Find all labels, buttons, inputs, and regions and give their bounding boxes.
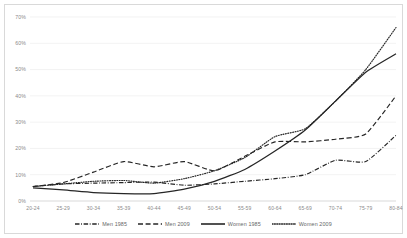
x-axis-tick-label: 40-44 [141, 205, 167, 211]
legend-item-women-1985[interactable]: Women 1985 [201, 221, 261, 227]
series-line-women-2009 [33, 28, 396, 187]
x-axis-tick-label: 30-34 [81, 205, 107, 211]
y-axis-tick-label: 30% [6, 119, 26, 125]
x-axis-tick-label: 60-64 [262, 205, 288, 211]
plot-area [0, 0, 407, 238]
y-axis-tick-label: 0% [6, 198, 26, 204]
y-axis-tick-label: 60% [6, 40, 26, 46]
series-line-men-1985 [33, 135, 396, 186]
legend-label: Men 2009 [165, 221, 190, 227]
x-axis-tick-label: 25-29 [50, 205, 76, 211]
series-line-women-1985 [33, 54, 396, 194]
y-axis-tick-label: 70% [6, 14, 26, 20]
legend-swatch-dashed-icon [138, 221, 162, 227]
legend-item-women-2009[interactable]: Women 2009 [272, 221, 332, 227]
x-axis-tick-label: 20-24 [20, 205, 46, 211]
legend-swatch-dash-dot-icon [75, 221, 99, 227]
legend-label: Men 1985 [102, 221, 127, 227]
x-axis-tick-label: 50-54 [202, 205, 228, 211]
legend-item-men-1985[interactable]: Men 1985 [75, 221, 127, 227]
legend-label: Women 2009 [299, 221, 332, 227]
legend-item-men-2009[interactable]: Men 2009 [138, 221, 190, 227]
chart-legend: Men 1985Men 2009Women 1985Women 2009 [0, 221, 407, 227]
y-axis-tick-label: 50% [6, 66, 26, 72]
legend-swatch-solid-icon [201, 221, 225, 227]
y-axis-tick-label: 10% [6, 172, 26, 178]
x-axis-tick-label: 80-84 [383, 205, 407, 211]
x-axis-tick-label: 35-39 [111, 205, 137, 211]
legend-swatch-dotted-icon [272, 221, 296, 227]
x-axis-tick-label: 70-74 [323, 205, 349, 211]
line-chart: 0%10%20%30%40%50%60%70% 20-2425-2930-343… [0, 0, 407, 238]
series-line-men-2009 [33, 96, 396, 187]
x-axis-tick-label: 55-59 [232, 205, 258, 211]
legend-label: Women 1985 [228, 221, 261, 227]
x-axis-tick-label: 75-79 [353, 205, 379, 211]
y-axis-tick-label: 20% [6, 145, 26, 151]
y-axis-tick-label: 40% [6, 93, 26, 99]
x-axis-tick-label: 45-49 [171, 205, 197, 211]
x-axis-tick-label: 65-69 [292, 205, 318, 211]
